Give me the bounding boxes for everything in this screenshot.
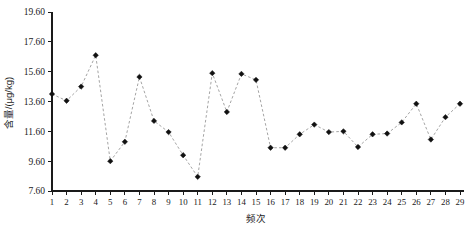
x-tick-label: 20 — [324, 197, 333, 207]
x-axis-ticks: 1234567891011121314151617181920212223242… — [50, 191, 465, 207]
data-point-marker — [326, 129, 331, 134]
x-tick-label: 15 — [252, 197, 261, 207]
y-tick-label: 19.60 — [24, 7, 46, 17]
x-tick-label: 9 — [166, 197, 171, 207]
x-tick-label: 25 — [397, 197, 406, 207]
x-tick-label: 16 — [266, 197, 275, 207]
x-tick-label: 28 — [441, 197, 450, 207]
x-tick-label: 21 — [339, 197, 348, 207]
x-tick-label: 22 — [354, 197, 363, 207]
x-axis-title: 频次 — [246, 213, 266, 224]
chart-axes — [52, 12, 464, 191]
data-point-marker — [253, 77, 258, 82]
x-tick-label: 2 — [64, 197, 68, 207]
x-tick-label: 13 — [222, 197, 231, 207]
data-point-marker — [49, 91, 54, 96]
y-tick-label: 17.60 — [24, 37, 46, 47]
data-point-marker — [64, 98, 69, 103]
axis-spines — [52, 12, 464, 191]
y-axis-title: 含量/(μg/kg) — [3, 77, 14, 129]
x-tick-label: 14 — [237, 197, 246, 207]
line-chart: 7.609.6011.6013.6015.6017.6019.60 123456… — [0, 0, 471, 227]
x-tick-label: 27 — [426, 197, 435, 207]
data-point-marker — [108, 158, 113, 163]
x-tick-label: 4 — [94, 197, 99, 207]
data-point-marker — [122, 139, 127, 144]
data-point-marker — [195, 174, 200, 179]
x-tick-label: 1 — [50, 197, 54, 207]
data-point-marker — [210, 70, 215, 75]
x-tick-label: 29 — [456, 197, 465, 207]
x-tick-label: 5 — [108, 197, 113, 207]
data-point-marker — [297, 132, 302, 137]
data-point-marker — [457, 101, 462, 106]
data-series — [49, 53, 462, 180]
x-tick-label: 10 — [179, 197, 188, 207]
x-tick-label: 12 — [208, 197, 217, 207]
data-point-marker — [428, 137, 433, 142]
x-tick-label: 19 — [310, 197, 319, 207]
data-point-marker — [443, 114, 448, 119]
y-tick-label: 7.60 — [28, 186, 45, 196]
x-tick-label: 26 — [412, 197, 421, 207]
y-tick-label: 11.60 — [24, 127, 45, 137]
x-tick-label: 3 — [79, 197, 84, 207]
data-point-marker — [180, 153, 185, 158]
x-tick-label: 11 — [193, 197, 201, 207]
series-line — [52, 55, 460, 177]
y-tick-label: 15.60 — [24, 67, 46, 77]
x-tick-label: 8 — [152, 197, 157, 207]
x-tick-label: 7 — [137, 197, 142, 207]
y-tick-label: 13.60 — [24, 97, 46, 107]
x-tick-label: 18 — [295, 197, 304, 207]
data-point-marker — [268, 145, 273, 150]
y-axis-ticks: 7.609.6011.6013.6015.6017.6019.60 — [24, 7, 52, 196]
x-tick-label: 6 — [123, 197, 128, 207]
data-point-marker — [384, 131, 389, 136]
x-tick-label: 24 — [383, 197, 392, 207]
x-tick-label: 17 — [281, 197, 290, 207]
y-tick-label: 9.60 — [28, 157, 45, 167]
data-point-marker — [239, 71, 244, 76]
data-point-marker — [166, 129, 171, 134]
x-tick-label: 23 — [368, 197, 377, 207]
data-point-marker — [282, 145, 287, 150]
data-point-marker — [312, 122, 317, 127]
data-point-marker — [137, 74, 142, 79]
data-point-marker — [93, 53, 98, 58]
data-point-marker — [224, 109, 229, 114]
chart-container: 7.609.6011.6013.6015.6017.6019.60 123456… — [0, 0, 471, 227]
